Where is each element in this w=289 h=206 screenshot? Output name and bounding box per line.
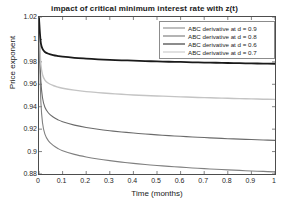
y-tick-label: 0.98 [3,57,37,64]
x-tick-label: 0.1 [50,177,74,184]
chart-figure: impact of critical minimum interest rate… [0,0,289,206]
y-tick-label: 0.9 [3,147,37,154]
legend-line-icon [163,48,185,56]
legend-line-icon [163,24,185,32]
x-tick-label: 0.9 [238,177,262,184]
y-tick-label: 1.02 [3,13,37,20]
x-tick-label: 0 [26,177,50,184]
y-tick-label: 0.92 [3,125,37,132]
x-tick-label: 1 [262,177,286,184]
chart-legend: ABC derivative at d = 0.9ABC derivative … [159,21,275,59]
x-tick-label: 0.7 [191,177,215,184]
legend-item: ABC derivative at d = 0.6 [160,40,274,48]
x-axis-label: Time (months) [38,189,276,198]
y-tick-label: 0.96 [3,80,37,87]
x-tick-label: 0.5 [144,177,168,184]
legend-label: ABC derivative at d = 0.8 [185,33,257,40]
y-tick-label: 1 [3,35,37,42]
legend-line-icon [163,32,185,40]
x-tick-label: 0.2 [73,177,97,184]
x-tick-label: 0.6 [168,177,192,184]
y-tick-label: 0.94 [3,102,37,109]
x-tick-label: 0.8 [215,177,239,184]
legend-item: ABC derivative at d = 0.8 [160,32,274,40]
chart-title: impact of critical minimum interest rate… [0,4,289,13]
legend-line-icon [163,40,185,48]
x-tick-label: 0.3 [97,177,121,184]
x-tick-label: 0.4 [120,177,144,184]
y-tick-label: 0.88 [3,170,37,177]
legend-label: ABC derivative at d = 0.7 [185,49,257,56]
legend-label: ABC derivative at d = 0.9 [185,25,257,32]
legend-item: ABC derivative at d = 0.7 [160,48,274,56]
legend-item: ABC derivative at d = 0.9 [160,24,274,32]
legend-label: ABC derivative at d = 0.6 [185,41,257,48]
